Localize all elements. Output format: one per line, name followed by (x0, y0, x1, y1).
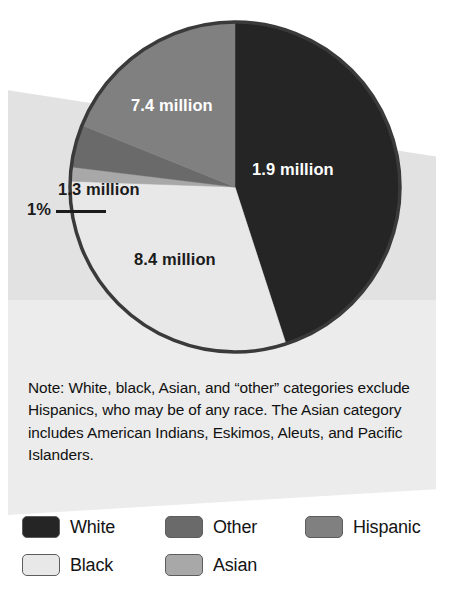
legend-item-asian[interactable]: Asian (165, 554, 305, 576)
slice-percent-label-asian: 1% (27, 200, 51, 219)
legend-item-white[interactable]: White (22, 516, 165, 538)
legend-swatch-other (165, 516, 203, 538)
legend-swatch-hispanic (305, 516, 343, 538)
legend-swatch-black (22, 554, 60, 576)
slice-value-label-black: 8.4 million (134, 250, 216, 269)
legend-label-hispanic: Hispanic (353, 517, 420, 538)
legend-label-other: Other (213, 517, 257, 538)
legend-swatch-asian (165, 554, 203, 576)
slice-value-label-other: 1.3 million (58, 180, 140, 199)
leader-line-asian (56, 210, 106, 213)
legend-label-asian: Asian (213, 555, 257, 576)
pie-chart-figure: 1.9 million 7.4 million 1.3 million 8.4 … (0, 0, 454, 591)
slice-value-label-hispanic: 7.4 million (131, 96, 213, 115)
legend-label-white: White (70, 517, 115, 538)
slice-value-label-white: 1.9 million (252, 160, 334, 179)
legend-swatch-white (22, 516, 60, 538)
legend-item-black[interactable]: Black (22, 554, 165, 576)
legend-item-hispanic[interactable]: Hispanic (305, 516, 442, 538)
chart-note: Note: White, black, Asian, and “other” c… (28, 377, 432, 467)
legend-item-other[interactable]: Other (165, 516, 305, 538)
chart-legend: WhiteOtherHispanicBlackAsian (22, 508, 442, 584)
legend-label-black: Black (70, 555, 113, 576)
